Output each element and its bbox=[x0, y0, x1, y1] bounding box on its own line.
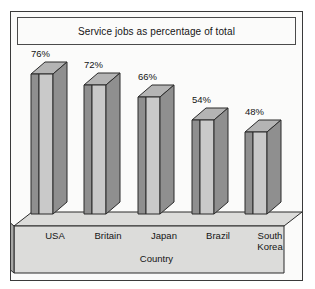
value-label-japan: 66% bbox=[138, 71, 157, 82]
bar-japan-left-face bbox=[138, 97, 146, 214]
bar-britain-left-face bbox=[84, 85, 92, 214]
bar-south-korea-right-face bbox=[267, 120, 281, 214]
chart-figure: Service jobs as percentage of total USA … bbox=[0, 0, 315, 289]
value-label-britain: 72% bbox=[84, 59, 103, 70]
bar-japan-right-face bbox=[160, 85, 174, 214]
bar-usa[interactable] bbox=[31, 62, 81, 222]
bar-south-korea-front-face bbox=[253, 132, 267, 214]
bar-usa-left-face bbox=[31, 74, 39, 214]
bar-brazil-right-face bbox=[214, 108, 228, 214]
bar-japan-front-face bbox=[146, 97, 160, 214]
plot-area: USA Britain Japan Brazil South Korea Cou… bbox=[11, 46, 302, 280]
bar-britain-front-face bbox=[92, 85, 106, 214]
bar-usa-right-face bbox=[53, 62, 67, 214]
bars-layer: 76% 72% 66% bbox=[11, 46, 302, 280]
value-label-south-korea: 48% bbox=[245, 106, 264, 117]
chart-title-box: Service jobs as percentage of total bbox=[17, 17, 296, 45]
bar-brazil[interactable] bbox=[192, 108, 242, 226]
bar-japan[interactable] bbox=[138, 85, 188, 225]
bar-south-korea-left-face bbox=[245, 132, 253, 214]
bar-usa-front-face bbox=[39, 74, 53, 214]
bar-britain[interactable] bbox=[84, 73, 134, 223]
bar-brazil-left-face bbox=[192, 120, 200, 214]
bar-south-korea[interactable] bbox=[245, 120, 295, 226]
chart-title: Service jobs as percentage of total bbox=[78, 26, 235, 37]
value-label-usa: 76% bbox=[31, 48, 50, 59]
value-label-brazil: 54% bbox=[192, 94, 211, 105]
bar-brazil-front-face bbox=[200, 120, 214, 214]
bar-britain-right-face bbox=[106, 73, 120, 214]
